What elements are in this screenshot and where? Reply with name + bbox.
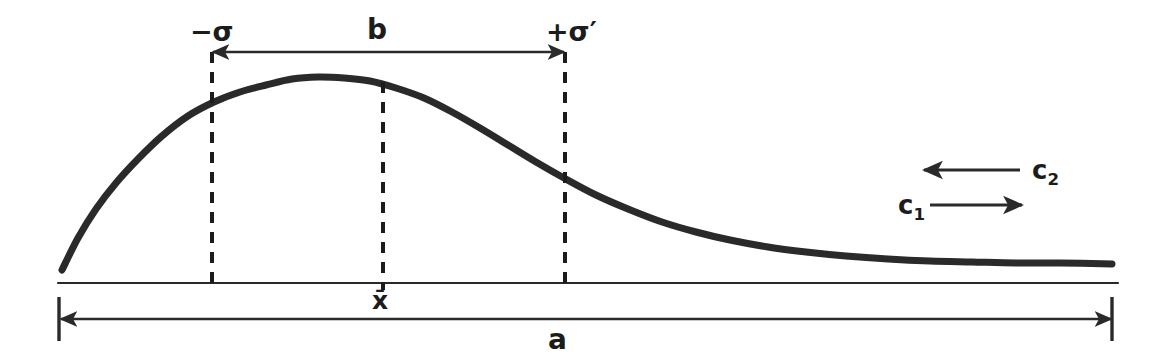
span-a-group (59, 297, 1112, 341)
distribution-curve-group (62, 77, 1112, 270)
figure-canvas: −σ b +σ′ x̄ a c2 c1 (0, 0, 1172, 361)
diagram-svg (0, 0, 1172, 361)
distribution-curve (62, 77, 1112, 270)
c-arrows-group (924, 170, 1022, 205)
